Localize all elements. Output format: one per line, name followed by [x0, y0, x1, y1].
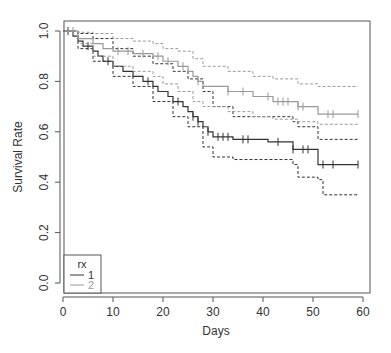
x-tick-label: 50 — [306, 305, 320, 319]
upper-ci-line — [63, 31, 358, 139]
y-tick-label: 0.8 — [37, 73, 51, 90]
y-tick-label: 0.0 — [37, 274, 51, 291]
x-tick-label: 0 — [60, 305, 67, 319]
x-tick-label: 30 — [206, 305, 220, 319]
y-axis-label: Survival Rate — [11, 121, 25, 193]
series-2 — [63, 27, 358, 124]
upper-ci-line — [63, 31, 358, 86]
survival-curve — [63, 31, 358, 114]
lower-ci-line — [63, 31, 358, 124]
y-tick-label: 0.2 — [37, 224, 51, 241]
y-tick-label: 0.6 — [37, 123, 51, 140]
plot-area — [63, 27, 358, 195]
legend: rx 1 2 — [64, 255, 101, 293]
x-tick-label: 10 — [106, 305, 120, 319]
y-axis: 0.00.20.40.60.81.0 — [37, 22, 60, 291]
lower-ci-line — [63, 31, 358, 195]
y-tick-label: 0.4 — [37, 174, 51, 191]
survival-chart: 0102030405060 0.00.20.40.60.81.0 Days Su… — [0, 0, 391, 353]
series-1 — [63, 27, 358, 195]
legend-label-2: 2 — [88, 279, 94, 291]
chart-svg: 0102030405060 0.00.20.40.60.81.0 Days Su… — [0, 0, 391, 353]
x-tick-label: 40 — [256, 305, 270, 319]
x-axis: 0102030405060 — [60, 297, 370, 319]
legend-title: rx — [77, 258, 87, 270]
y-tick-label: 1.0 — [37, 22, 51, 39]
survival-curve — [63, 31, 358, 165]
x-axis-label: Days — [202, 324, 229, 338]
x-tick-label: 60 — [356, 305, 370, 319]
x-tick-label: 20 — [156, 305, 170, 319]
